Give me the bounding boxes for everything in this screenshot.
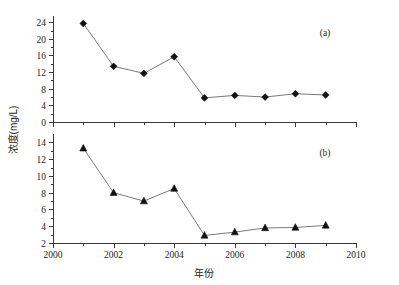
panel-b-ytick-label: 8 [41,189,46,199]
panel-b-ytick-label: 2 [41,239,46,249]
x-axis-title: 年份 [194,267,214,279]
panel-b-ytick-label: 6 [41,205,46,215]
panel-b-ytick-label: 14 [37,138,47,148]
y-axis-title: 浓度(mg/L) [7,106,19,155]
panel-a-marker [80,20,87,27]
panel-a-ytick-label: 4 [41,101,46,111]
panel-a-marker [292,90,299,97]
panel-a-marker [141,70,148,77]
xtick-label: 2008 [286,250,305,260]
panel-a-marker [231,92,238,99]
panel-a-marker [110,63,117,70]
xtick-label: 2010 [347,250,366,260]
panel-a-marker [262,94,269,101]
panel-a-ytick-label: 24 [37,18,47,28]
panel-a: 04812162024(a) [37,16,357,128]
panel-b-marker [171,185,178,192]
xtick-label: 2006 [225,250,244,260]
panel-a-series-line [83,23,325,97]
panel-a-marker [201,94,208,101]
panel-a-ytick-label: 0 [41,118,46,128]
panel-a-axes [53,16,356,122]
panel-b-marker [262,224,269,231]
panel-b-ytick-label: 12 [37,155,47,165]
panel-a-ytick-label: 20 [37,35,47,45]
xtick-label: 2000 [44,250,63,260]
panel-b-ytick-label: 10 [37,172,47,182]
chart-figure: 04812162024(a) 2468101214200020022004200… [0,0,399,285]
xtick-label: 2002 [104,250,123,260]
panel-b: 2468101214200020022004200620082010(b) [37,134,366,260]
panel-a-label: (a) [320,28,331,39]
panel-b-ytick-label: 4 [41,222,46,232]
xtick-label: 2004 [165,250,184,260]
panel-b-label: (b) [319,148,330,159]
panel-a-ytick-label: 8 [41,85,46,95]
panel-a-marker [322,92,329,99]
panel-a-ytick-label: 16 [37,51,47,61]
panel-b-series-line [83,148,325,235]
panel-a-ytick-label: 12 [37,68,47,78]
panel-b-marker [322,222,329,229]
chart-svg: 04812162024(a) 2468101214200020022004200… [0,0,399,285]
panel-b-marker [80,144,87,151]
panel-a-marker [171,53,178,60]
